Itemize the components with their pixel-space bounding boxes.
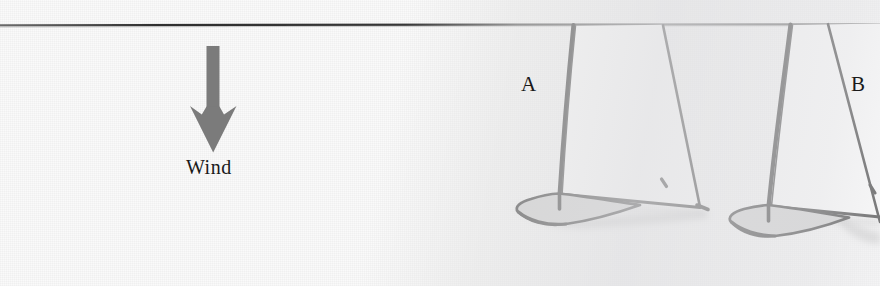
- wind-arrow-icon: [190, 46, 237, 153]
- boom-tip-a: [697, 205, 708, 210]
- mainsail-a: [559, 25, 700, 207]
- figure-drawing: [0, 0, 880, 286]
- sailboat-a: [517, 25, 708, 228]
- sailboat-b: [730, 0, 880, 244]
- mainsail-b: [768, 24, 880, 218]
- horizontal-rule: [0, 24, 880, 27]
- sailboat-wind-figure: Wind A B: [0, 0, 880, 286]
- boat-b-label: B: [851, 72, 866, 97]
- boat-a-label: A: [521, 72, 537, 97]
- wind-label: Wind: [186, 156, 232, 179]
